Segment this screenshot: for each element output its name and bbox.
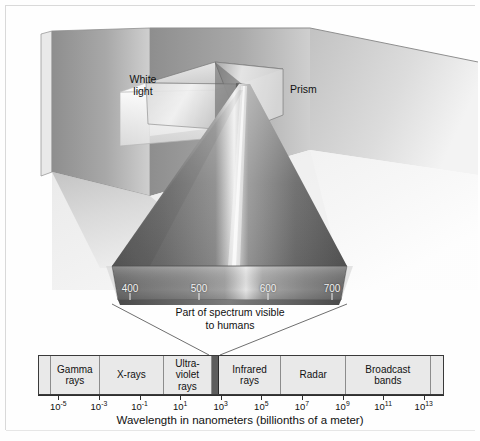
em-band-label-line1: Radar [300,369,327,380]
axis-tick-label: 103 [214,400,228,412]
em-band-gamma: Gammarays [51,356,99,394]
em-band-label: Gammarays [57,364,93,387]
axis-tick-mantissa: 10 [335,401,346,412]
visible-spectrum-caption: Part of spectrum visible to humans [130,306,330,331]
axis-tick-label: 105 [254,400,268,412]
em-band-label: Broadcastbands [365,364,410,387]
figure-container: White light Prism 400500600700 Part of s… [0,0,480,441]
axis-tick-mantissa: 10 [254,401,265,412]
em-band-label: X-rays [117,369,146,381]
em-spectrum-chart: GammaraysX-raysUltra-violetraysInfraredr… [38,355,444,395]
em-band-label-line1: Ultra- [175,358,199,369]
axis-tick-label: 1011 [374,400,392,412]
em-band-label: Ultra-violetrays [175,358,199,393]
axis-tick-exponent: 1 [183,400,187,407]
white-light-label-line1: White [130,73,157,85]
visible-spectrum-tick-700: 700 [324,283,341,294]
axis-tick-mantissa: 10 [131,401,142,412]
em-band-infrared: Infraredrays [219,356,282,394]
axis-tick-label: 107 [295,400,309,412]
axis-tick-exponent: 11 [385,400,392,407]
axis-tick-exponent: -3 [101,400,107,407]
axis-tick-mantissa: 10 [91,401,102,412]
em-band-label: Radar [300,369,327,381]
axis-tick-label: 1013 [415,400,433,412]
em-spectrum-bar: GammaraysX-raysUltra-violetraysInfraredr… [38,355,444,395]
em-band-spacer [39,356,51,394]
em-band-broadcast: Broadcastbands [346,356,431,394]
em-band-label-line2: rays [240,375,259,386]
em-band-label-line1: Infrared [232,364,266,375]
axis-tick-exponent: -1 [142,400,148,407]
axis-tick-mantissa: 10 [50,401,61,412]
em-band-label-line2: bands [374,375,401,386]
visible-spectrum-tick-400: 400 [122,283,139,294]
em-band-radar: Radar [281,356,346,394]
visible-caption-line1: Part of spectrum visible [175,306,284,318]
visible-spectrum-tick-600: 600 [260,283,277,294]
em-band-ultra: Ultra-violetrays [164,356,211,394]
em-band-visible-light [212,356,219,394]
axis-tick-exponent: 7 [305,400,309,407]
axis-tick-label: 10-5 [50,400,67,412]
em-band-label-line2: violet [176,369,199,380]
axis-title: Wavelength in nanometers (billionths of … [0,414,480,426]
em-band-label-line1: Gamma [57,364,93,375]
em-band-label-line1: Broadcast [365,364,410,375]
axis-tick-mantissa: 10 [374,401,385,412]
axis-tick-mantissa: 10 [173,401,184,412]
white-light-label-line2: light [133,85,152,97]
axis-tick-exponent: 13 [425,400,433,407]
em-band-label-line1: X-rays [117,369,146,380]
axis-tick-label: 10-1 [131,400,148,412]
white-light-label: White light [112,62,174,107]
em-band-spacer [431,356,443,394]
axis-tick-mantissa: 10 [214,401,225,412]
axis-tick-exponent: -5 [61,400,67,407]
em-band-label-line2: rays [65,375,84,386]
wavelength-axis: 10-510-310-110110310510710910111013 [38,395,444,405]
visible-spectrum-bar [106,266,353,305]
visible-caption-line2: to humans [205,319,254,331]
em-band-label: Infraredrays [232,364,266,387]
axis-tick-exponent: 5 [265,400,269,407]
em-band-x-rays: X-rays [100,356,165,394]
visible-spectrum-tick-500: 500 [191,283,208,294]
axis-tick-label: 10-3 [91,400,108,412]
prism-label: Prism [290,83,317,95]
axis-tick-exponent: 9 [346,400,350,407]
em-band-label-line3: rays [178,381,197,392]
axis-tick-exponent: 3 [224,400,228,407]
axis-tick-mantissa: 10 [295,401,306,412]
axis-tick-mantissa: 10 [415,401,426,412]
axis-tick-label: 109 [335,400,349,412]
axis-tick-label: 101 [173,400,187,412]
